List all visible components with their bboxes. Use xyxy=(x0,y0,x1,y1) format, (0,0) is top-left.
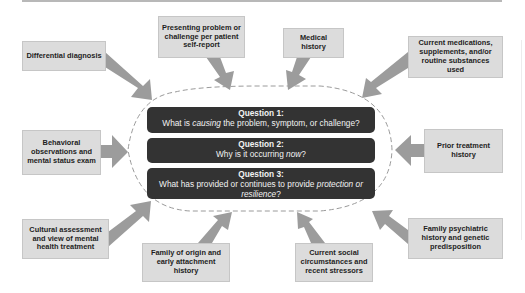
question-text-emphasis: now xyxy=(286,149,301,159)
arrow-prior xyxy=(395,135,424,166)
arrow-behavioral xyxy=(100,135,128,168)
question-1: Question 1: What is causing the problem,… xyxy=(147,107,375,133)
arrow-family-psych xyxy=(372,210,408,244)
box-label: Family of origin and early attachment hi… xyxy=(146,249,226,276)
question-text-post: the problem, symptom, or challenge? xyxy=(221,118,360,128)
arrow-differential xyxy=(105,52,152,100)
box-label: Medical history xyxy=(287,34,340,52)
box-label: Current medications, supplements, and/or… xyxy=(412,39,499,75)
box-medical-history: Medical history xyxy=(283,28,344,58)
question-text-pre: What has provided or continues to provid… xyxy=(159,179,317,189)
box-label: Prior treatment history xyxy=(428,142,499,160)
box-family-of-origin: Family of origin and early attachment hi… xyxy=(142,243,230,282)
box-current-medications: Current medications, supplements, and/or… xyxy=(408,36,503,78)
question-text-emphasis: causing xyxy=(192,118,221,128)
question-text-post: ? xyxy=(301,149,306,159)
box-label: Presenting problem or challenge per pati… xyxy=(162,24,241,51)
question-text-pre: Why is it occurring xyxy=(216,149,286,159)
box-prior-treatment: Prior treatment history xyxy=(424,129,503,173)
box-label: Family psychiatric history and genetic p… xyxy=(412,225,499,252)
question-text-pre: What is xyxy=(162,118,192,128)
box-presenting-problem: Presenting problem or challenge per pati… xyxy=(158,16,245,58)
box-current-social: Current social circumstances and recent … xyxy=(295,243,373,282)
box-cultural-assessment: Cultural assessment and view of mental h… xyxy=(22,219,109,259)
box-label: Cultural assessment and view of mental h… xyxy=(26,226,105,253)
box-label: Differential diagnosis xyxy=(26,52,101,61)
arrow-social xyxy=(297,212,325,243)
arrow-medications xyxy=(362,52,408,98)
question-3: Question 3: What has provided or continu… xyxy=(147,168,375,199)
box-family-psychiatric: Family psychiatric history and genetic p… xyxy=(408,218,503,259)
question-2: Question 2: Why is it occurring now? xyxy=(147,138,375,163)
arrow-presenting xyxy=(206,57,234,90)
arrow-family-origin xyxy=(198,212,232,243)
arrow-cultural xyxy=(108,201,151,247)
box-behavioral-observations: Behavioral observations and mental statu… xyxy=(22,130,101,175)
question-text-post: ? xyxy=(276,189,281,199)
box-label: Current social circumstances and recent … xyxy=(299,249,369,276)
box-differential-diagnosis: Differential diagnosis xyxy=(22,41,106,71)
arrow-medical xyxy=(286,57,311,90)
box-label: Behavioral observations and mental statu… xyxy=(26,139,97,166)
